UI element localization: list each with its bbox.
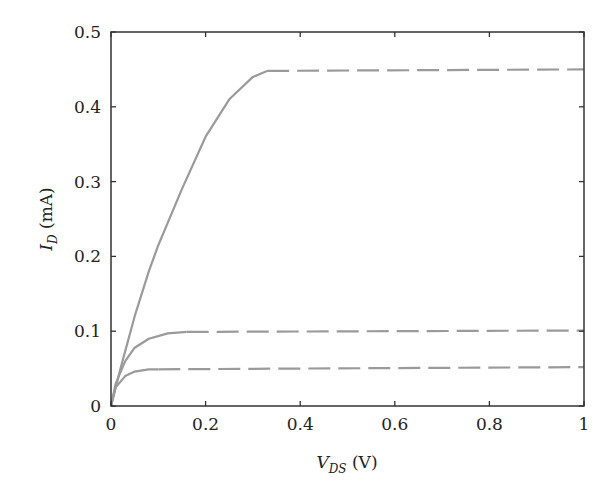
curve-mid-dashed bbox=[187, 331, 584, 332]
iv-characteristic-chart: 00.20.40.60.8100.10.20.30.40.5 VDS (V) I… bbox=[0, 0, 614, 493]
y-tick-label: 0.5 bbox=[74, 22, 101, 42]
curves bbox=[111, 69, 584, 406]
y-tick-label: 0.3 bbox=[74, 172, 101, 192]
y-axis-label: ID (mA) bbox=[36, 187, 60, 251]
x-tick-label: 1 bbox=[579, 414, 590, 434]
y-tick-label: 0 bbox=[90, 396, 101, 416]
y-tick-label: 0.4 bbox=[74, 97, 101, 117]
x-tick-label: 0 bbox=[106, 414, 117, 434]
axis-ticks: 00.20.40.60.8100.10.20.30.40.5 bbox=[74, 22, 589, 434]
curve-high-solid bbox=[111, 71, 267, 406]
curve-low-dashed bbox=[158, 367, 584, 369]
x-tick-label: 0.6 bbox=[381, 414, 408, 434]
curve-high-dashed bbox=[267, 69, 584, 71]
plot-frame bbox=[111, 32, 584, 406]
y-tick-label: 0.2 bbox=[74, 246, 101, 266]
x-tick-label: 0.2 bbox=[192, 414, 219, 434]
x-tick-label: 0.8 bbox=[476, 414, 503, 434]
x-axis-label: VDS (V) bbox=[316, 452, 377, 476]
x-tick-label: 0.4 bbox=[287, 414, 314, 434]
y-tick-label: 0.1 bbox=[74, 321, 101, 341]
